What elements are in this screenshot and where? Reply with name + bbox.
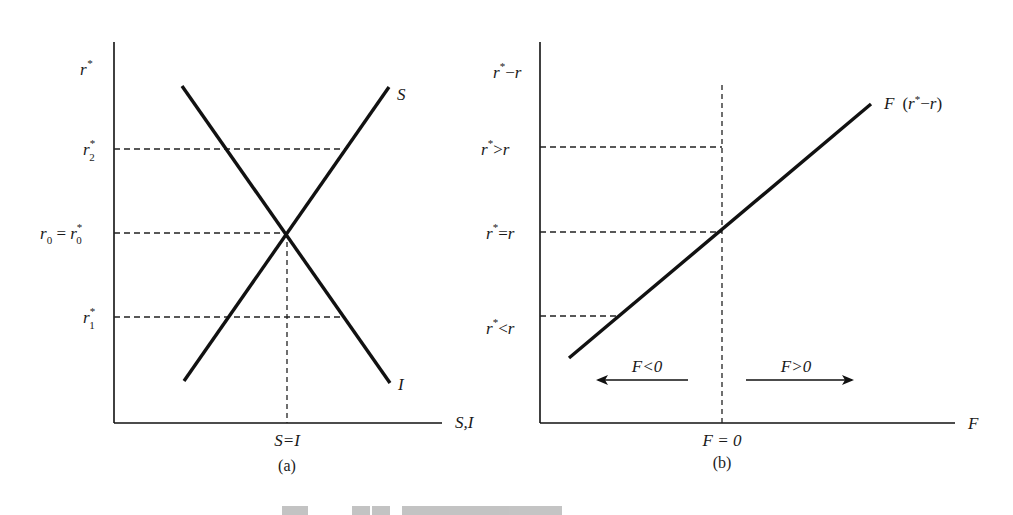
tick-f-zero: F = 0 [702,431,742,450]
panel-b-x-axis-label: F [967,414,979,433]
panel-a-x-axis-label: S,I [455,413,475,432]
arrow-label-inflow: F>0 [780,357,812,376]
panel-a-caption: (a) [278,457,296,475]
curve-label-S: S [397,85,406,104]
panel-b: F(r*−r) r*−r r*>r r*=r r*<r F<0 F>0 F F … [481,42,979,472]
arrow-label-outflow: F<0 [631,357,663,376]
panel-a: S I r* r*2 r0 = r*0 r*1 S,I S=I (a) [40,42,475,475]
curve-label-I: I [397,375,405,394]
capital-flow-curve-F [569,104,871,358]
tick-r-star-eq-r: r*=r [486,221,515,243]
tick-r-star-gt-r: r*>r [481,137,510,159]
panel-b-caption: (b) [713,454,732,472]
tick-s-eq-i: S=I [274,431,301,450]
tick-r1: r*1 [83,305,95,331]
tick-r2: r*2 [83,137,95,163]
figure-caption-cropped [282,506,562,515]
tick-r-star-lt-r: r*<r [486,316,515,338]
panel-b-y-axis-label: r*−r [493,60,522,82]
figure-canvas: S I r* r*2 r0 = r*0 r*1 S,I S=I (a) F(r*… [0,0,1013,515]
tick-r0: r0 = r*0 [40,221,82,246]
panel-a-y-axis-label: r* [80,57,93,79]
curve-label-F: F(r*−r) [883,93,942,113]
